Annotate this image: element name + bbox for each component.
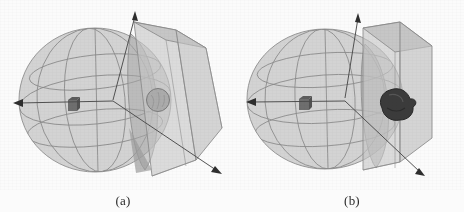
figure-container: (a) (b) xyxy=(0,0,464,212)
subfigure-a-graphic xyxy=(0,0,232,190)
subfigure-a xyxy=(0,0,232,190)
spherical-inclusion xyxy=(147,89,170,112)
subfigure-a-caption: (a) xyxy=(63,189,183,212)
subfigure-b-graphic xyxy=(232,0,464,190)
source-cube-marker xyxy=(299,96,312,110)
subfigure-b xyxy=(232,0,464,190)
subfigure-b-caption: (b) xyxy=(292,189,412,212)
source-cube-marker xyxy=(68,97,80,111)
